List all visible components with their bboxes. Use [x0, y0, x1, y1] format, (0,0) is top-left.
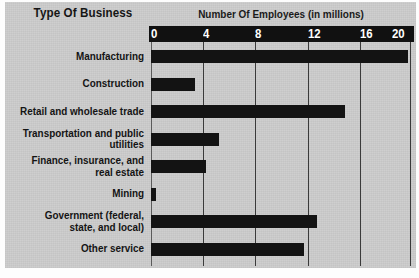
- category-label-manufacturing: Manufacturing: [16, 51, 144, 63]
- bar-finance-insurance-and-real-estate: [151, 160, 206, 173]
- gridline-12: [308, 42, 309, 266]
- category-axis-title: Type Of Business: [23, 6, 144, 20]
- category-label-transportation-and-public-utilities: Transportation and publicutilities: [16, 128, 144, 151]
- category-label-finance-insurance-and-real-estate: Finance, insurance, andreal estate: [16, 155, 144, 178]
- bar-mining: [151, 188, 156, 201]
- category-label-column: ManufacturingConstructionRetail and whol…: [8, 42, 144, 266]
- label-line: Other service: [16, 243, 144, 255]
- bar-government-federal-state-and-local: [151, 215, 317, 228]
- label-line: Mining: [16, 188, 144, 200]
- gridline-0: [151, 42, 152, 266]
- label-line: real estate: [16, 167, 144, 179]
- gridline-16: [360, 42, 361, 266]
- bar-retail-and-wholesale-trade: [151, 105, 345, 118]
- label-line: Construction: [16, 78, 144, 90]
- label-line: Retail and wholesale trade: [16, 106, 144, 118]
- value-axis-title: Number Of Employees (in millions): [158, 8, 403, 20]
- label-line: Finance, insurance, and: [16, 155, 144, 167]
- gridline-4: [203, 42, 204, 266]
- category-label-government-federal-state-and-local: Government (federal,state, and local): [16, 210, 144, 233]
- bar-manufacturing: [151, 50, 408, 63]
- chart-screenshot: Type Of Business Number Of Employees (in…: [0, 0, 419, 278]
- label-line: utilities: [16, 139, 144, 151]
- x-axis-tick-12: 12: [308, 27, 321, 41]
- category-label-other-service: Other service: [16, 243, 144, 255]
- gridline-8: [255, 42, 256, 266]
- x-axis-tick-0: 0: [151, 27, 157, 41]
- category-label-construction: Construction: [16, 78, 144, 90]
- x-axis-tick-8: 8: [255, 27, 261, 41]
- plot-area: [149, 42, 414, 266]
- gridline-20: [410, 42, 411, 266]
- x-axis-tick-16: 16: [360, 27, 373, 41]
- label-line: Manufacturing: [16, 51, 144, 63]
- category-label-mining: Mining: [16, 188, 144, 200]
- category-label-retail-and-wholesale-trade: Retail and wholesale trade: [16, 106, 144, 118]
- x-axis-tick-4: 4: [203, 27, 209, 41]
- label-line: Transportation and public: [16, 128, 144, 140]
- bar-transportation-and-public-utilities: [151, 133, 219, 146]
- label-line: Government (federal,: [16, 210, 144, 222]
- bar-construction: [151, 78, 195, 91]
- bar-other-service: [151, 243, 304, 256]
- label-line: state, and local): [16, 222, 144, 234]
- value-axis-band: 048121620: [149, 26, 414, 42]
- x-axis-tick-20: 20: [392, 27, 405, 41]
